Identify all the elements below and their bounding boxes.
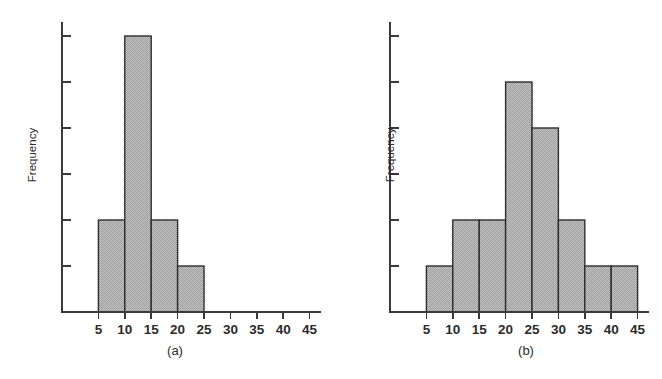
x-tick-group-b: 51015202530354045 [423,312,646,337]
histogram-bar [125,36,151,312]
panel-caption-b: (b) [518,343,534,358]
x-axis-tick-label: 35 [577,322,593,337]
histogram-panel-b: 51015202530354045 Frequency (b) [331,0,662,379]
histogram-bar [479,220,505,312]
histogram-bar [532,128,558,312]
histogram-bar [178,266,204,312]
histogram-figure: 51015202530354045 Frequency (a) 51015202… [0,0,662,379]
histogram-plot-a: 51015202530354045 Frequency (a) [0,0,331,379]
bar-group-a [98,36,204,312]
histogram-bar [506,82,532,312]
histogram-bar [426,266,452,312]
y-axis-label-b: Frequency [384,128,396,183]
histogram-bar [98,220,124,312]
histogram-plot-b: 51015202530354045 Frequency (b) [331,0,662,379]
x-axis-tick-label: 40 [276,322,291,337]
x-axis-tick-label: 40 [604,322,619,337]
x-axis-tick-label: 5 [95,322,103,337]
x-axis-tick-label: 45 [302,322,318,337]
x-axis-tick-label: 10 [445,322,460,337]
x-axis-tick-label: 15 [144,322,160,337]
x-axis-tick-label: 20 [498,322,513,337]
panel-caption-a: (a) [167,343,183,358]
x-axis-tick-label: 30 [551,322,566,337]
x-axis-tick-label: 25 [196,322,212,337]
histogram-bar [558,220,584,312]
histogram-bar [611,266,637,312]
x-axis-tick-label: 30 [223,322,238,337]
x-axis-tick-label: 20 [170,322,185,337]
x-axis-tick-label: 35 [249,322,265,337]
histogram-bar [151,220,177,312]
y-axis-label-a: Frequency [26,128,38,183]
x-tick-group-a: 51015202530354045 [95,312,318,337]
x-axis-tick-label: 15 [472,322,488,337]
x-axis-tick-label: 5 [423,322,431,337]
x-axis-tick-label: 10 [117,322,132,337]
bar-group-b [426,82,637,312]
x-axis-tick-label: 45 [630,322,646,337]
histogram-bar [585,266,611,312]
histogram-bar [453,220,479,312]
histogram-panel-a: 51015202530354045 Frequency (a) [0,0,331,379]
x-axis-tick-label: 25 [524,322,540,337]
